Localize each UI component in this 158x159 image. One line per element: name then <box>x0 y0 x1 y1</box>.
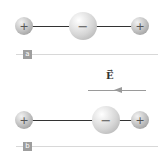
positive-charge-left-a: + <box>15 17 33 35</box>
field-symbol: → E <box>106 70 114 81</box>
positive-charge-right-b: + <box>131 111 149 129</box>
arrow-left-icon <box>114 87 122 93</box>
charge-sign: − <box>78 19 89 34</box>
panel-label-a: a <box>23 50 32 59</box>
positive-charge-left-b: + <box>15 111 33 129</box>
panel-label-b: b <box>23 142 32 151</box>
negative-charge-center-a: − <box>69 12 97 40</box>
charge-sign: − <box>101 113 112 128</box>
negative-charge-center-b: − <box>92 106 120 134</box>
charge-sign: + <box>19 114 28 127</box>
charge-sign: + <box>135 20 144 33</box>
charge-sign: + <box>19 20 28 33</box>
separator-b <box>16 146 158 147</box>
charge-sign: + <box>135 114 144 127</box>
positive-charge-right-a: + <box>131 17 149 35</box>
vector-arrow-icon: → <box>107 66 113 75</box>
rod-b <box>22 120 140 121</box>
separator-a <box>16 54 158 55</box>
